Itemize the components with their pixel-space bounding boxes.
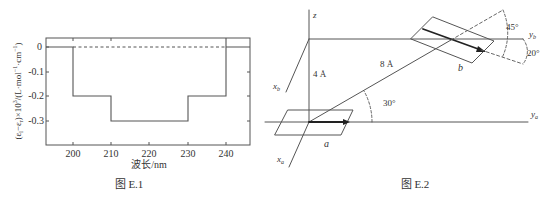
ytick-1: -0.1 (28, 66, 44, 77)
label-xa: xa (276, 154, 284, 165)
x-axis-label: 波长/nm (131, 158, 167, 170)
angle-45-arc (502, 10, 508, 58)
label-45deg: 45° (506, 22, 519, 32)
caption-e1: 图 E.1 (115, 178, 144, 190)
dashed-ray-20 (481, 50, 523, 64)
y-ticks (46, 47, 250, 121)
diagram-e2: z xb yb ya xa 4 Å 8 Å 30° a b (265, 10, 540, 190)
caption-e2: 图 E.2 (401, 178, 430, 190)
label-4A: 4 Å (313, 69, 327, 79)
xtick-4: 240 (219, 148, 234, 159)
xtick-3: 230 (181, 148, 196, 159)
xtick-0: 200 (66, 148, 81, 159)
xtick-1: 210 (104, 148, 119, 159)
xa-axis (289, 122, 309, 167)
xtick-2: 220 (142, 148, 157, 159)
label-xb: xb (272, 81, 280, 92)
label-yb: yb (528, 29, 536, 40)
chart-e1: 0 -0.1 -0.2 -0.3 200 210 220 230 240 波长/… (12, 38, 250, 190)
label-8A: 8 Å (380, 59, 394, 69)
ytick-2: -0.2 (28, 90, 44, 101)
label-20deg: 20° (527, 48, 540, 58)
figure-canvas: 0 -0.1 -0.2 -0.3 200 210 220 230 240 波长/… (0, 0, 553, 199)
plot-frame (46, 38, 250, 145)
label-ya: ya (530, 109, 538, 120)
label-z: z (312, 10, 317, 20)
ytick-3: -0.3 (28, 115, 44, 126)
label-b: b (458, 62, 463, 73)
cd-step-curve (46, 38, 250, 121)
x-ticks (73, 38, 226, 145)
xb-axis (286, 39, 309, 92)
label-30deg: 30° (383, 98, 396, 108)
y-tick-labels: 0 -0.1 -0.2 -0.3 (28, 41, 44, 126)
x-tick-labels: 200 210 220 230 240 (66, 148, 234, 159)
label-a: a (324, 138, 329, 149)
dashed-ray-45 (451, 10, 503, 40)
y-axis-label: (εl−εr)×103/(L·mol−1·cm−1) (12, 42, 24, 139)
angle-30-arc (364, 91, 372, 122)
ytick-0: 0 (37, 41, 42, 52)
arrowhead-b (476, 46, 486, 52)
